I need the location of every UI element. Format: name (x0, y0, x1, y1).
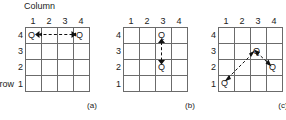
row-header-1: 1 (116, 79, 121, 89)
panel-caption-a: (a) (87, 101, 97, 110)
row-header-2: 2 (116, 62, 121, 72)
column-header-3: 3 (160, 16, 165, 26)
panel-caption-c: (c) (278, 101, 286, 110)
column-header-2: 2 (46, 16, 51, 26)
row-header-3: 3 (116, 46, 121, 56)
queen-marker: Q (158, 30, 165, 40)
row-header-3: 3 (18, 46, 23, 56)
panel-caption-b: (b) (185, 101, 195, 110)
queen-marker: Q (28, 30, 35, 40)
panel-b: 1 2 3 4 4 3 2 1 Q Q (b) (116, 16, 195, 110)
panel-c: 1 2 3 4 4 3 2 1 Q Q Q (211, 16, 286, 110)
column-header-4: 4 (271, 16, 276, 26)
row-axis-label: row (0, 79, 14, 89)
queen-marker: Q (76, 30, 83, 40)
column-header-1: 1 (128, 16, 133, 26)
column-header-4: 4 (78, 16, 83, 26)
row-header-2: 2 (18, 62, 23, 72)
column-header-3: 3 (255, 16, 260, 26)
column-header-2: 2 (144, 16, 149, 26)
column-header-2: 2 (239, 16, 244, 26)
row-header-3: 3 (211, 46, 216, 56)
queen-attack-figure: Column 1 2 3 4 4 3 2 row 1 Q Q (0, 0, 286, 120)
row-header-1: 1 (18, 79, 23, 89)
arrowhead-left (35, 31, 40, 38)
panel-a: Column 1 2 3 4 4 3 2 row 1 Q Q (0, 1, 97, 110)
attack-arrow-diagonal-up (228, 55, 252, 79)
row-header-4: 4 (211, 30, 216, 40)
grid-c (219, 28, 283, 92)
figure-canvas: Column 1 2 3 4 4 3 2 row 1 Q Q (0, 0, 286, 120)
row-header-4: 4 (116, 30, 121, 40)
row-header-4: 4 (18, 30, 23, 40)
column-header-4: 4 (176, 16, 181, 26)
grid-b (124, 28, 188, 92)
column-header-1: 1 (223, 16, 228, 26)
column-header-1: 1 (30, 16, 35, 26)
column-axis-label: Column (24, 1, 55, 11)
row-header-2: 2 (211, 62, 216, 72)
column-header-3: 3 (62, 16, 67, 26)
row-header-1: 1 (211, 79, 216, 89)
